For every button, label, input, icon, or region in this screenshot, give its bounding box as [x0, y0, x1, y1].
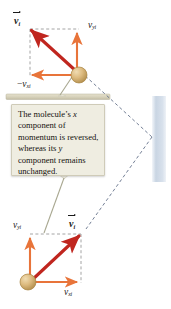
bottom-x-component-label: vxi — [64, 288, 72, 298]
top-resultant-velocity-arrow — [32, 31, 77, 72]
callout-stem-lower — [44, 176, 68, 234]
molecule-sphere-before — [20, 274, 36, 290]
bottom-resultant-velocity-arrow — [32, 236, 79, 280]
callout-text-x: x — [73, 109, 77, 119]
bottom-y-component-label: vyi — [13, 221, 21, 231]
callout-text-y: y — [59, 143, 63, 153]
top-panel-group — [30, 29, 87, 83]
top-y-component-label: vyi — [88, 21, 96, 31]
wall-surface-ledge — [6, 94, 110, 100]
container-wall-band — [152, 96, 166, 182]
bottom-panel-group — [20, 234, 81, 290]
momentum-explanation-callout: The molecule’s x component of momentum i… — [11, 104, 105, 176]
molecule-sphere-after — [71, 67, 87, 83]
callout-text-a: The molecule’s — [18, 109, 73, 119]
top-resultant-velocity-label: vi — [14, 16, 20, 27]
callout-text-c: component remains unchanged. — [18, 155, 86, 176]
bottom-resultant-velocity-label: vi — [69, 219, 75, 230]
top-negative-x-component-label: −vxi — [17, 80, 30, 90]
figure-canvas: vi vyi −vxi The molecule’s x component o… — [0, 0, 171, 309]
